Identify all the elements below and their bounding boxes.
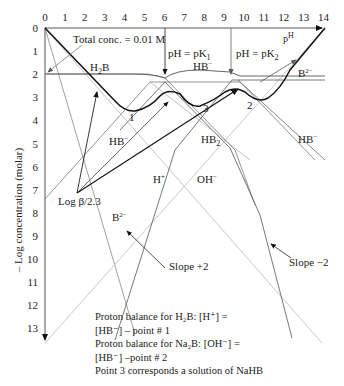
- x-tick: 12: [278, 11, 289, 23]
- slope-minus-arrow: [271, 244, 291, 258]
- x-tick: 13: [298, 11, 310, 23]
- svg-text:B2−: B2−: [298, 67, 313, 79]
- x-tick: 0: [42, 11, 48, 23]
- note-line: Proton balance for Na₂B: [OH⁻] =: [95, 337, 344, 351]
- svg-text:Slope +2: Slope +2: [169, 260, 209, 272]
- proton-balance-notes: Proton balance for H₂B: [H⁺] = [HB⁻] – p…: [95, 310, 344, 378]
- x-tick: 11: [259, 11, 270, 23]
- y-tick: 6: [33, 161, 39, 173]
- svg-text:pH: pH: [283, 31, 294, 44]
- y-tick: 1: [33, 45, 39, 57]
- y-tick: 8: [33, 207, 39, 219]
- y-tick: 4: [33, 114, 39, 126]
- y-tick: 7: [33, 184, 39, 196]
- x-tick: 1: [62, 11, 68, 23]
- x-tick: 4: [122, 11, 128, 23]
- x-tick: 3: [102, 11, 108, 23]
- x-tick: 8: [201, 11, 207, 23]
- b2-minus-line: [115, 80, 325, 340]
- y-tick: 3: [33, 91, 39, 103]
- x-tick: 6: [162, 11, 168, 23]
- svg-text:HB−: HB−: [298, 133, 317, 145]
- x-tick: 14: [318, 11, 330, 23]
- y-tick: 5: [33, 138, 39, 150]
- note-line: [HB⁻] –point # 2: [95, 351, 344, 365]
- hb-minus-right: [238, 80, 325, 160]
- total-conc-label: Total conc. = 0.01 M: [73, 33, 165, 45]
- y-tick: 10: [27, 253, 39, 265]
- x-tick: 2: [82, 11, 88, 23]
- x-tick: 9: [221, 11, 227, 23]
- x-tick: 5: [142, 11, 148, 23]
- note-line: Point 3 corresponds a solution of NaHB: [95, 364, 344, 378]
- x-tick-labels: 01234567891011121314: [42, 11, 329, 23]
- svg-text:2: 2: [247, 99, 253, 111]
- svg-text:pH = pK2: pH = pK2: [236, 47, 279, 62]
- svg-text:OH−: OH−: [197, 173, 217, 185]
- y-tick: 2: [33, 68, 39, 80]
- ph-arrow: [260, 60, 296, 82]
- svg-text:1: 1: [129, 111, 135, 123]
- y-axis-label: – Log concentration (molar): [12, 148, 25, 274]
- note-line: [HB⁻] – point # 1: [95, 324, 344, 338]
- note-line: Proton balance for H₂B: [H⁺] =: [95, 310, 344, 324]
- x-tick: 7: [182, 11, 188, 23]
- annotations: Total conc. = 0.01 M pH = pK1 pH = pK2 p…: [58, 31, 329, 272]
- y-tick: 13: [27, 322, 39, 334]
- y-tick: 0: [33, 22, 39, 34]
- y-tick: 9: [33, 230, 39, 242]
- y-tick-labels: 012345678910111213: [27, 22, 39, 334]
- svg-text:3: 3: [203, 102, 209, 114]
- y-tick: 11: [27, 276, 38, 288]
- svg-text:H+: H+: [153, 173, 165, 185]
- slope-plus-arrow: [127, 231, 165, 268]
- y-tick: 12: [27, 299, 38, 311]
- svg-text:Slope −2: Slope −2: [289, 256, 329, 268]
- svg-text:Log β/2.3: Log β/2.3: [58, 195, 101, 207]
- svg-text:B2−: B2−: [112, 211, 127, 223]
- x-tick: 10: [239, 11, 251, 23]
- svg-text:HB−: HB−: [109, 135, 128, 147]
